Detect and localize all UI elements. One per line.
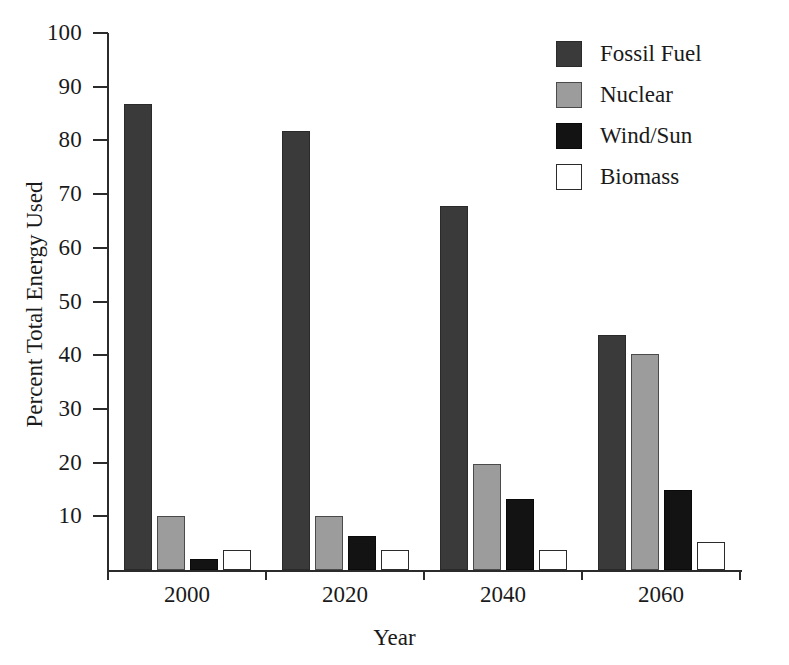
- y-tick-label-text: 100: [47, 21, 82, 44]
- legend-item-label: Wind/Sun: [600, 124, 692, 147]
- legend-item-label: Nuclear: [600, 83, 673, 106]
- bar: [157, 516, 185, 570]
- x-tick-mark: [423, 571, 425, 580]
- legend-swatch-icon: [556, 123, 582, 149]
- y-tick-label-text: 20: [59, 451, 82, 474]
- y-tick-mark: [93, 301, 108, 303]
- x-tick-mark: [265, 571, 267, 580]
- y-axis-title: Percent Total Energy Used: [23, 35, 46, 575]
- y-tick-mark: [93, 462, 108, 464]
- y-tick-mark: [93, 32, 108, 34]
- bar: [631, 354, 659, 570]
- bar: [282, 131, 310, 570]
- x-tick-label: 2060: [581, 583, 741, 606]
- bar: [506, 499, 534, 570]
- y-tick-mark: [93, 247, 108, 249]
- bar: [315, 516, 343, 570]
- y-tick-label-text: 10: [59, 504, 82, 527]
- legend-item: Fossil Fuel: [556, 33, 786, 74]
- legend-item-label: Biomass: [600, 165, 679, 188]
- bar: [190, 559, 218, 570]
- y-tick-mark: [93, 139, 108, 141]
- x-tick-mark: [581, 571, 583, 580]
- x-tick-label: 2000: [107, 583, 267, 606]
- y-tick-label-text: 90: [59, 75, 82, 98]
- x-tick-mark: [107, 571, 109, 580]
- legend-swatch-icon: [556, 164, 582, 190]
- y-tick-mark: [93, 354, 108, 356]
- legend-swatch-icon: [556, 82, 582, 108]
- y-tick-mark: [93, 86, 108, 88]
- bar: [124, 104, 152, 570]
- bar: [223, 550, 251, 570]
- bar: [598, 335, 626, 570]
- x-tick-label: 2020: [265, 583, 425, 606]
- y-tick-label-text: 70: [59, 182, 82, 205]
- y-tick-label-text: 30: [59, 397, 82, 420]
- bar: [473, 464, 501, 570]
- legend-item: Biomass: [556, 156, 786, 197]
- x-tick-label: 2040: [423, 583, 583, 606]
- y-tick-label-text: 80: [59, 128, 82, 151]
- y-tick-mark: [93, 193, 108, 195]
- bar: [381, 550, 409, 570]
- bar: [440, 206, 468, 570]
- x-axis-title: Year: [0, 626, 789, 649]
- bar: [697, 542, 725, 570]
- chart-legend: Fossil FuelNuclearWind/SunBiomass: [556, 33, 786, 197]
- legend-item-label: Fossil Fuel: [600, 42, 702, 65]
- legend-item: Nuclear: [556, 74, 786, 115]
- bar: [348, 536, 376, 570]
- legend-swatch-icon: [556, 41, 582, 67]
- y-tick-label-text: 40: [59, 343, 82, 366]
- y-tick-label-text: 50: [59, 290, 82, 313]
- y-tick-mark: [93, 515, 108, 517]
- bar-chart: Percent Total Energy Used 10203040506070…: [0, 0, 789, 665]
- bar: [664, 490, 692, 570]
- y-tick-mark: [93, 408, 108, 410]
- y-tick-label-text: 60: [59, 236, 82, 259]
- bar: [539, 550, 567, 570]
- x-tick-mark: [739, 571, 741, 580]
- legend-item: Wind/Sun: [556, 115, 786, 156]
